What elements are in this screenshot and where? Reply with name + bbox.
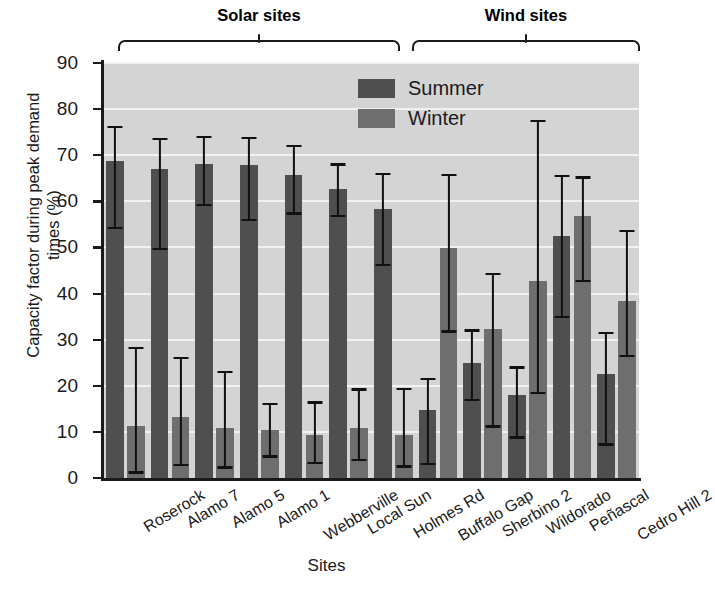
error-bar-winter-2: [224, 372, 226, 467]
error-bar-summer-8: [471, 330, 473, 399]
error-cap-lower: [262, 455, 277, 457]
error-cap-upper: [420, 378, 435, 380]
x-axis-title: Sites: [0, 556, 653, 576]
error-cap-upper: [152, 138, 167, 140]
y-tick-mark: [93, 385, 102, 387]
legend-label-winter: Winter: [408, 108, 466, 128]
error-bar-winter-9: [537, 121, 539, 393]
error-cap-upper: [307, 401, 322, 403]
error-cap-lower: [509, 436, 524, 438]
error-cap-upper: [599, 332, 614, 334]
group-title-wind: Wind sites: [412, 6, 640, 25]
error-cap-lower: [107, 227, 122, 229]
error-bar-summer-0: [114, 127, 116, 228]
y-tick-mark: [93, 339, 102, 341]
error-bar-summer-10: [560, 176, 562, 317]
bar-summer-4: [285, 175, 303, 478]
error-bar-winter-4: [313, 402, 315, 462]
error-cap-upper: [173, 357, 188, 359]
error-cap-upper: [107, 126, 122, 128]
error-bar-summer-3: [248, 138, 250, 220]
error-cap-lower: [375, 264, 390, 266]
error-cap-upper: [375, 173, 390, 175]
error-cap-upper: [554, 175, 569, 177]
legend-swatch-summer: [358, 79, 395, 98]
error-cap-upper: [575, 176, 590, 178]
error-bar-summer-6: [382, 174, 384, 265]
error-cap-lower: [286, 212, 301, 214]
error-bar-winter-3: [269, 404, 271, 456]
error-bar-winter-0: [135, 348, 137, 473]
error-bar-winter-11: [626, 231, 628, 356]
y-tick-mark: [93, 293, 102, 295]
y-tick-label: 10: [44, 422, 78, 441]
y-tick-mark: [93, 200, 102, 202]
error-cap-lower: [575, 280, 590, 282]
error-cap-lower: [197, 204, 212, 206]
y-tick-mark: [93, 431, 102, 433]
error-bar-winter-10: [581, 177, 583, 280]
y-tick-mark: [93, 246, 102, 248]
y-axis-title: Capacity factor during peak demand times…: [23, 80, 63, 370]
error-bar-summer-5: [337, 164, 339, 216]
error-bar-summer-7: [426, 379, 428, 464]
error-cap-upper: [197, 136, 212, 138]
error-cap-lower: [599, 443, 614, 445]
y-tick-mark: [93, 108, 102, 110]
error-bar-summer-1: [158, 139, 160, 249]
error-cap-upper: [241, 137, 256, 139]
error-cap-upper: [396, 388, 411, 390]
error-cap-lower: [441, 330, 456, 332]
error-cap-upper: [286, 145, 301, 147]
gridline: [103, 62, 639, 64]
error-bar-summer-2: [203, 137, 205, 205]
group-title-solar: Solar sites: [118, 6, 400, 25]
error-bar-winter-8: [492, 274, 494, 426]
error-cap-upper: [331, 163, 346, 165]
error-cap-upper: [262, 403, 277, 405]
error-cap-lower: [620, 355, 635, 357]
error-cap-lower: [420, 463, 435, 465]
error-cap-upper: [620, 230, 635, 232]
y-tick-mark: [93, 62, 102, 64]
y-tick-label: 90: [44, 53, 78, 72]
error-cap-lower: [173, 464, 188, 466]
error-cap-lower: [352, 459, 367, 461]
group-headers: Solar sites Wind sites: [0, 0, 653, 62]
error-cap-upper: [509, 366, 524, 368]
error-bar-summer-4: [292, 146, 294, 213]
gridline: [103, 200, 639, 202]
legend-label-summer: Summer: [408, 78, 484, 98]
error-bar-winter-7: [447, 175, 449, 332]
error-cap-upper: [465, 329, 480, 331]
error-cap-lower: [530, 392, 545, 394]
bar-summer-5: [329, 189, 347, 478]
error-cap-upper: [486, 273, 501, 275]
error-cap-lower: [241, 219, 256, 221]
error-bar-summer-9: [516, 367, 518, 437]
error-bar-winter-6: [403, 389, 405, 467]
bar-summer-2: [195, 164, 213, 478]
y-tick-mark: [93, 154, 102, 156]
legend-swatch-winter: [358, 109, 395, 128]
error-cap-lower: [486, 425, 501, 427]
error-cap-lower: [396, 465, 411, 467]
group-bracket-wind: [412, 40, 640, 51]
y-tick-label: 20: [44, 376, 78, 395]
error-cap-lower: [331, 215, 346, 217]
group-bracket-solar: [118, 40, 400, 51]
error-cap-lower: [465, 399, 480, 401]
error-cap-lower: [218, 466, 233, 468]
error-cap-upper: [441, 174, 456, 176]
error-cap-upper: [218, 371, 233, 373]
error-cap-lower: [554, 316, 569, 318]
legend: Summer Winter: [358, 76, 538, 136]
y-axis-line: [101, 60, 104, 481]
error-cap-lower: [307, 462, 322, 464]
legend-item-winter: Winter: [358, 106, 538, 130]
gridline: [103, 154, 639, 156]
legend-item-summer: Summer: [358, 76, 538, 100]
error-bar-summer-11: [605, 333, 607, 445]
error-cap-lower: [152, 248, 167, 250]
error-cap-lower: [128, 471, 143, 473]
